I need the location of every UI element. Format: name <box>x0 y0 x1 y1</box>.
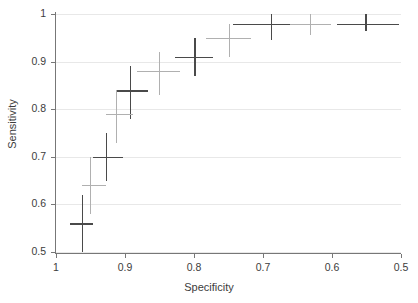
grid-line-y <box>56 14 401 15</box>
x-tick-mark <box>332 254 333 258</box>
roc-chart: 0.50.60.70.80.91 10.90.80.70.60.5 Specif… <box>0 0 418 303</box>
y-tick-label: 1 <box>12 7 46 19</box>
x-tick-label: 0.7 <box>243 261 283 273</box>
y-tick-label: 0.5 <box>12 245 46 257</box>
y-axis-title: Sensitivity <box>6 64 18 184</box>
error-bar-horizontal <box>337 24 399 26</box>
x-tick-label: 0.8 <box>174 261 214 273</box>
error-bar-horizontal <box>93 157 123 159</box>
error-bar-vertical <box>106 133 108 181</box>
y-tick-mark <box>51 14 55 15</box>
error-bar-horizontal <box>106 114 133 115</box>
grid-line-y <box>56 204 401 205</box>
error-bar-vertical <box>116 90 117 142</box>
x-tick-mark <box>401 254 402 258</box>
x-tick-label: 0.5 <box>381 261 418 273</box>
x-tick-label: 0.6 <box>312 261 352 273</box>
error-bar-horizontal <box>116 90 148 92</box>
error-bar-vertical <box>229 24 230 57</box>
error-bar-vertical <box>130 66 132 118</box>
x-tick-mark <box>194 254 195 258</box>
x-axis-line <box>55 253 401 254</box>
x-tick-label: 1 <box>36 261 76 273</box>
y-axis-line <box>55 12 56 254</box>
x-tick-mark <box>125 254 126 258</box>
error-bar-vertical <box>365 14 367 31</box>
y-tick-mark <box>51 109 55 110</box>
y-tick-mark <box>51 204 55 205</box>
error-bar-vertical <box>194 38 196 76</box>
x-axis-title: Specificity <box>0 281 418 293</box>
grid-line-y <box>56 109 401 110</box>
y-tick-mark <box>51 252 55 253</box>
x-tick-label: 0.9 <box>105 261 145 273</box>
y-tick-mark <box>51 157 55 158</box>
x-tick-mark <box>263 254 264 258</box>
error-bar-vertical <box>271 14 273 40</box>
error-bar-vertical <box>90 157 91 214</box>
y-tick-label: 0.6 <box>12 197 46 209</box>
y-tick-mark <box>51 62 55 63</box>
error-bar-vertical <box>310 14 311 35</box>
error-bar-vertical <box>159 52 160 95</box>
error-bar-vertical <box>82 195 84 252</box>
grid-line-y <box>56 62 401 63</box>
x-tick-mark <box>56 254 57 258</box>
error-bar-horizontal <box>82 185 106 186</box>
